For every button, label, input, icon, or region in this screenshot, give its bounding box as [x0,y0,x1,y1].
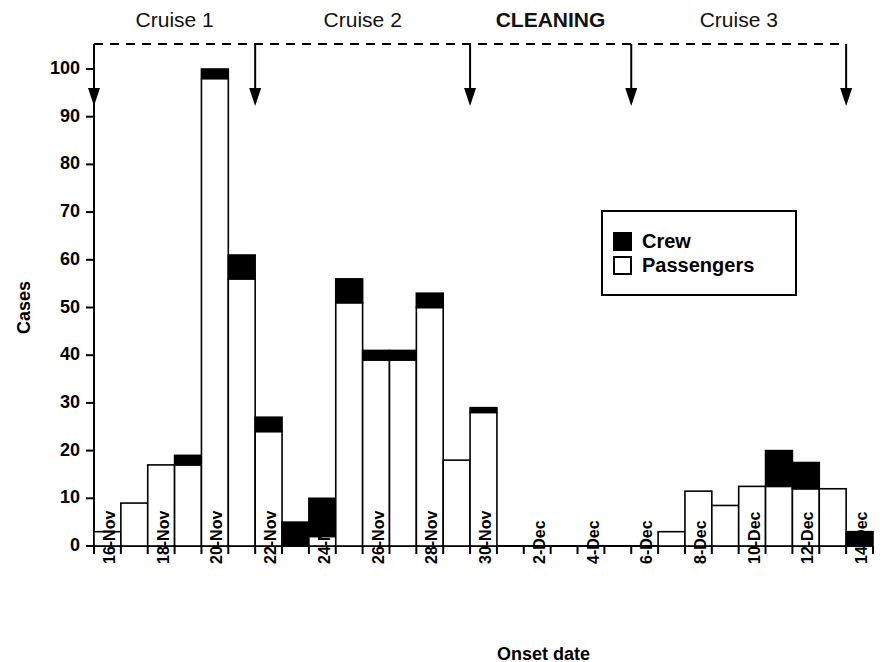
y-tick-70: 70 [28,201,80,222]
x-tick-22-Nov: 22-Nov [262,511,280,564]
legend-item-passengers: Passengers [603,253,795,277]
y-tick-50: 50 [28,297,80,318]
x-tick-24-Nov: 24-Nov [316,511,334,564]
legend-swatch-crew-icon [613,232,632,251]
legend: Crew Passengers [601,210,797,296]
x-tick-20-Nov: 20-Nov [208,511,226,564]
x-tick-10-Dec: 10-Dec [746,512,764,564]
legend-swatch-passengers-icon [613,256,632,275]
x-tick-30-Nov: 30-Nov [477,511,495,564]
y-tick-10: 10 [28,487,80,508]
x-tick-12-Dec: 12-Dec [799,512,817,564]
y-tick-80: 80 [28,153,80,174]
x-tick-14-Dec: 14-Dec [853,512,871,564]
y-tick-100: 100 [28,58,80,79]
legend-label-crew: Crew [642,231,691,251]
y-tick-30: 30 [28,392,80,413]
epidemic-curve-chart: Cruise 1 Cruise 2 CLEANING Cruise 3 Case… [0,0,886,662]
legend-label-passengers: Passengers [642,255,754,275]
x-tick-16-Nov: 16-Nov [101,511,119,564]
y-tick-40: 40 [28,344,80,365]
x-tick-18-Nov: 18-Nov [155,511,173,564]
x-tick-8-Dec: 8-Dec [692,520,710,564]
x-tick-6-Dec: 6-Dec [638,520,656,564]
y-tick-60: 60 [28,249,80,270]
y-tick-20: 20 [28,440,80,461]
x-tick-4-Dec: 4-Dec [585,520,603,564]
x-tick-28-Nov: 28-Nov [423,511,441,564]
y-tick-90: 90 [28,106,80,127]
x-tick-26-Nov: 26-Nov [370,511,388,564]
y-tick-0: 0 [28,535,80,556]
x-tick-2-Dec: 2-Dec [531,520,549,564]
legend-item-crew: Crew [603,229,795,253]
